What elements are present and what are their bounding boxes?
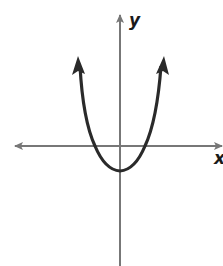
x-axis-label: x <box>213 148 223 168</box>
curve-arrow-right-icon <box>156 56 169 75</box>
curve-arrow-left-icon <box>72 56 85 75</box>
graph-canvas: y x <box>0 0 223 266</box>
y-axis-label: y <box>129 10 141 30</box>
